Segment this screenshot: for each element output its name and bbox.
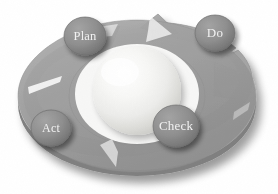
grain-overlay <box>0 0 278 194</box>
pdca-diagram-canvas: Plan Do Check Act <box>0 0 278 194</box>
pdca-cycle-illustration: Plan Do Check Act <box>0 0 278 194</box>
